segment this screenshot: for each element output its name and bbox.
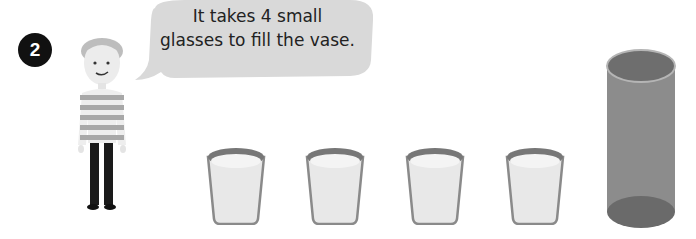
question-number-badge: 2 — [18, 33, 52, 67]
small-glass-icon — [205, 145, 267, 225]
small-glass-icon — [504, 145, 566, 225]
small-glass-icon — [304, 145, 366, 225]
vase-icon — [605, 48, 677, 230]
boy-icon — [70, 35, 130, 215]
question-number: 2 — [30, 39, 41, 61]
speech-text: It takes 4 small glasses to fill the vas… — [150, 4, 365, 52]
speech-line-1: It takes 4 small — [150, 4, 365, 28]
small-glass-icon — [404, 145, 466, 225]
speech-line-2: glasses to fill the vase. — [150, 28, 365, 52]
